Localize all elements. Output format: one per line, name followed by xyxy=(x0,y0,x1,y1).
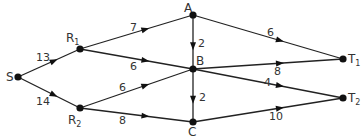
node-label-r2: R2 xyxy=(68,113,81,129)
edge-weight-label: 8 xyxy=(119,114,126,127)
edge-r2-c xyxy=(80,108,193,122)
edge-r2-b xyxy=(80,69,193,108)
node-label-b: B xyxy=(196,54,204,68)
edge-b-t1 xyxy=(193,59,343,69)
arrowhead-icon xyxy=(49,91,59,100)
node-label-t2: T2 xyxy=(347,91,360,107)
node-t2 xyxy=(339,94,346,101)
nodes-layer xyxy=(14,11,346,125)
edge-weight-label: 6 xyxy=(119,81,126,94)
edge-weight-label: 7 xyxy=(130,21,137,34)
node-label-r1: R1 xyxy=(66,31,79,47)
arrowhead-icon xyxy=(141,25,150,33)
edge-weight-label: 4 xyxy=(264,76,271,89)
node-labels-layer: SR1R2ABCT1T2 xyxy=(6,1,360,138)
network-diagram: 131476682684210 SR1R2ABCT1T2 xyxy=(0,0,363,138)
node-label-a: A xyxy=(184,1,193,15)
node-s xyxy=(14,73,21,80)
node-label-t1: T1 xyxy=(347,52,360,68)
edge-weight-label: 8 xyxy=(274,65,281,78)
edge-weight-label: 2 xyxy=(198,37,205,50)
node-label-c: C xyxy=(188,125,196,138)
arrowhead-icon xyxy=(190,96,196,104)
node-r2 xyxy=(76,104,83,111)
edge-weight-label: 14 xyxy=(36,95,50,108)
edge-weight-label: 6 xyxy=(130,60,137,73)
arrowhead-icon xyxy=(275,36,284,44)
arrows-layer xyxy=(49,25,285,119)
edge-weight-label: 2 xyxy=(199,91,206,104)
edge-weight-label: 10 xyxy=(269,110,283,123)
arrowhead-icon xyxy=(190,42,196,50)
edge-weight-label: 6 xyxy=(267,26,274,39)
edge-c-t2 xyxy=(193,98,343,122)
arrowhead-icon xyxy=(141,81,151,89)
arrowhead-icon xyxy=(49,56,59,65)
edge-weight-label: 13 xyxy=(36,51,50,64)
node-label-s: S xyxy=(6,70,14,84)
node-t1 xyxy=(339,55,346,62)
